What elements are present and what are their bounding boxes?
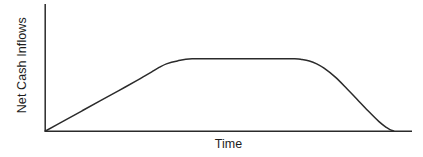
x-axis-label-container: Time bbox=[45, 134, 412, 154]
chart-figure: Net Cash Inflows Time bbox=[0, 0, 423, 157]
x-axis-label: Time bbox=[215, 138, 243, 151]
y-axis-label: Net Cash Inflows bbox=[16, 17, 29, 113]
y-axis-label-container: Net Cash Inflows bbox=[0, 0, 44, 131]
